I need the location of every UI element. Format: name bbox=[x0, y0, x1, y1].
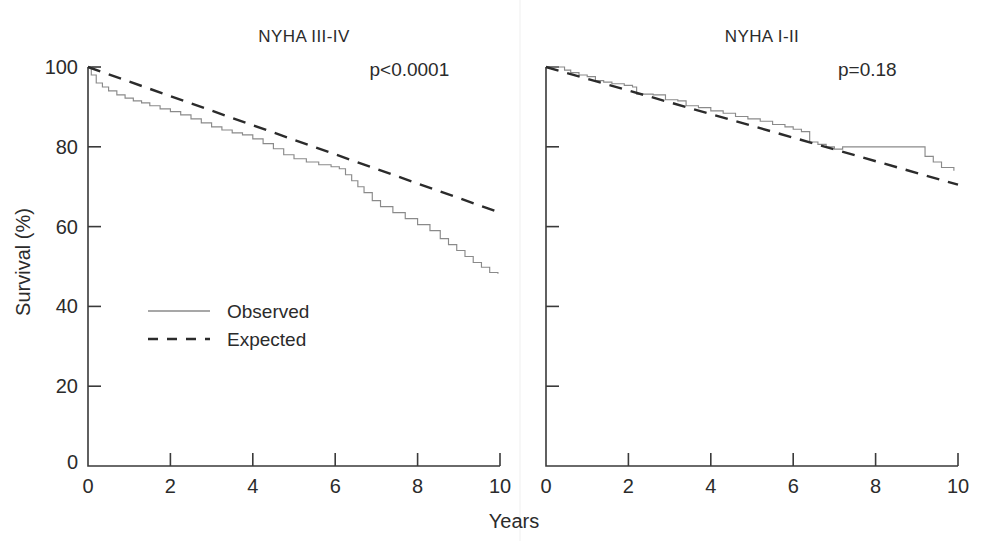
x-axis-title: Years bbox=[489, 510, 539, 532]
x-tick-label: 6 bbox=[788, 475, 799, 497]
y-tick-label: 60 bbox=[56, 216, 78, 238]
p-value-annotation: p<0.0001 bbox=[369, 59, 449, 80]
y-tick-label: 80 bbox=[56, 136, 78, 158]
legend-label-observed: Observed bbox=[227, 301, 309, 322]
x-tick-label: 2 bbox=[165, 475, 176, 497]
x-tick-label: 4 bbox=[705, 475, 716, 497]
chart-canvas: 2040608010000246810NYHA III-IVp<0.0001 0… bbox=[0, 0, 988, 541]
y-tick-label: 20 bbox=[56, 375, 78, 397]
x-tick-label: 0 bbox=[540, 475, 551, 497]
x-tick-label: 8 bbox=[870, 475, 881, 497]
x-tick-label: 8 bbox=[412, 475, 423, 497]
x-tick-label: 2 bbox=[623, 475, 634, 497]
y-tick-label: 100 bbox=[45, 56, 78, 78]
x-tick-label: 0 bbox=[82, 475, 93, 497]
y-tick-label-zero: 0 bbox=[67, 451, 78, 473]
y-tick-label: 40 bbox=[56, 295, 78, 317]
y-axis-title: Survival (%) bbox=[12, 208, 34, 316]
figure-background bbox=[0, 0, 988, 541]
x-tick-label: 4 bbox=[247, 475, 258, 497]
panel-title: NYHA I-II bbox=[725, 27, 799, 46]
p-value-annotation: p=0.18 bbox=[838, 59, 897, 80]
x-tick-label: 10 bbox=[947, 475, 969, 497]
survival-figure: 2040608010000246810NYHA III-IVp<0.0001 0… bbox=[0, 0, 988, 541]
legend-label-expected: Expected bbox=[227, 329, 306, 350]
panel-title: NYHA III-IV bbox=[258, 27, 350, 46]
x-tick-label: 6 bbox=[330, 475, 341, 497]
x-tick-label: 10 bbox=[489, 475, 511, 497]
